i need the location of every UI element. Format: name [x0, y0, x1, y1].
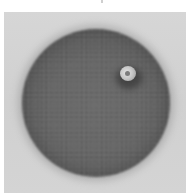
image-panel — [4, 12, 186, 193]
textured-sphere — [22, 29, 170, 177]
artifact-mark — [101, 0, 103, 3]
inclusion-core — [125, 71, 130, 76]
sphere-edge-shading — [22, 29, 170, 177]
